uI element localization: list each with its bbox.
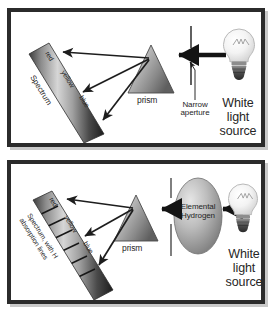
- spectrum-figure: red yellow blue Spectrum prism Narrowape…: [0, 0, 279, 314]
- prism-label: prism: [122, 244, 142, 253]
- light-bulb-icon: [223, 29, 254, 80]
- narrow-aperture-label-line2: aperture: [181, 108, 210, 117]
- hydrogen-label-line1: Elemental: [181, 202, 216, 211]
- hydrogen-label-line2: Hydrogen: [181, 211, 215, 220]
- elemental-hydrogen-label: ElementalHydrogen: [171, 202, 225, 220]
- panel-top-stage: red yellow blue Spectrum prism Narrowape…: [11, 12, 261, 143]
- prism-label: prism: [137, 96, 157, 105]
- prism-triangle-icon: [128, 45, 174, 93]
- white-light-source-label: Whitelightsource: [218, 247, 270, 289]
- source-label-line3: source: [226, 275, 263, 289]
- panel-continuous-spectrum: red yellow blue Spectrum prism Narrowape…: [7, 8, 265, 147]
- white-light-source-label: Whitelightsource: [212, 96, 264, 138]
- source-label-line2: light: [233, 261, 255, 275]
- light-bulb-icon: [229, 184, 258, 232]
- source-label-line2: light: [227, 110, 249, 124]
- prism-triangle-icon: [114, 195, 158, 241]
- panel-absorption-spectrum: red yellow blue Spectrum, with Habsorpti…: [7, 160, 265, 304]
- panel-bottom-stage: red yellow blue Spectrum, with Habsorpti…: [11, 164, 261, 300]
- source-label-line1: White: [222, 96, 253, 110]
- source-label-line3: source: [220, 124, 257, 138]
- source-label-line1: White: [228, 247, 259, 261]
